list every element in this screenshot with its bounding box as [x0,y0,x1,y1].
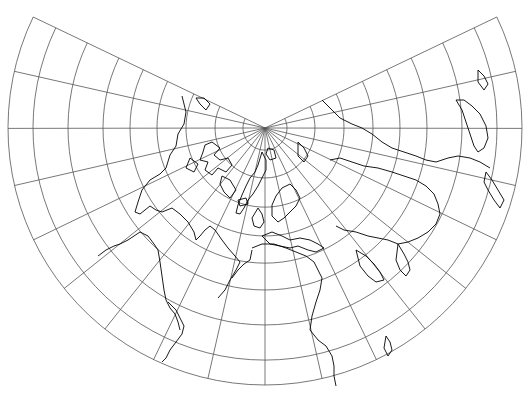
meridian-line [15,128,266,186]
coastline-greenland [236,152,266,214]
coastline-india [396,244,410,276]
coastline-madagascar [384,336,392,356]
meridian-line [64,128,265,288]
coastline-british-isles [252,208,264,228]
coastline-north-america [135,96,240,298]
coastline-kamchatka [456,100,488,152]
meridian-line [208,128,265,379]
meridian-line [105,128,265,329]
coastlines [98,70,504,386]
coastline-canadian-arctic [186,142,236,198]
coastline-sakhalin-kuril [478,70,488,90]
coastline-alaska [196,98,210,110]
coastline-siberia [322,100,490,168]
meridian-line [33,17,265,128]
meridian-line [265,128,376,360]
map-canvas[interactable] [0,0,531,401]
coastline-mediterranean [262,232,324,252]
coastline-arabia [356,250,384,282]
meridian-line [265,128,516,186]
meridian-line [154,128,265,360]
meridian-line [265,128,425,329]
meridian-line [265,128,466,288]
coastline-japan [484,172,504,208]
meridian-line [14,71,265,128]
coastline-west-africa [232,250,252,278]
coastline-scandinavia [272,184,300,222]
graticule [8,17,522,385]
meridian-line [265,128,322,379]
coastline-central-america [98,232,180,330]
coastline-central-asia [330,158,440,244]
